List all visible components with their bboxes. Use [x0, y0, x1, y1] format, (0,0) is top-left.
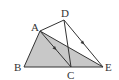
label-d: D — [61, 7, 69, 19]
segment-ad — [40, 20, 64, 31]
shaded-triangle-abe — [24, 31, 103, 67]
label-c: C — [67, 69, 74, 80]
label-b: B — [14, 61, 21, 73]
geometry-diagram: A D B C E — [0, 0, 119, 80]
label-e: E — [105, 61, 112, 73]
label-a: A — [31, 21, 39, 33]
